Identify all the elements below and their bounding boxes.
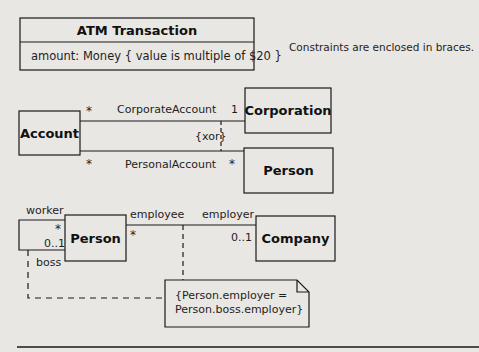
account-class-name: Account	[19, 111, 80, 155]
boss-multiplicity: 0..1	[44, 238, 65, 249]
atm-class-name: ATM Transaction	[20, 19, 254, 42]
employee-multiplicity: *	[130, 229, 136, 241]
corporate-account-mult-corporation: 1	[231, 104, 238, 115]
corporate-account-label: CorporateAccount	[117, 104, 216, 115]
corporation-class-name: Corporation	[245, 88, 331, 133]
personal-account-mult-account: *	[86, 158, 92, 170]
corporate-account-mult-account: *	[86, 105, 92, 117]
caption-text: Constraints are enclosed in braces.	[289, 42, 474, 53]
person-class-name-2: Person	[65, 215, 126, 261]
note-constraint-line2: Person.boss.employer}	[175, 303, 303, 317]
person-class-name: Person	[244, 148, 333, 193]
note-constraint-line1: {Person.employer =	[175, 289, 287, 303]
xor-constraint-label: {xor}	[195, 131, 226, 142]
atm-attribute: amount: Money { value is multiple of $20…	[31, 51, 282, 63]
employee-role-label: employee	[130, 209, 184, 220]
company-class-name: Company	[256, 216, 335, 261]
personal-account-label: PersonalAccount	[125, 159, 216, 170]
employer-role-label: employer	[202, 209, 254, 220]
personal-account-mult-person: *	[229, 158, 235, 170]
boss-role-label: boss	[36, 257, 61, 268]
worker-role-label: worker	[26, 205, 64, 216]
employer-multiplicity: 0..1	[231, 232, 252, 243]
worker-multiplicity: *	[55, 223, 61, 235]
